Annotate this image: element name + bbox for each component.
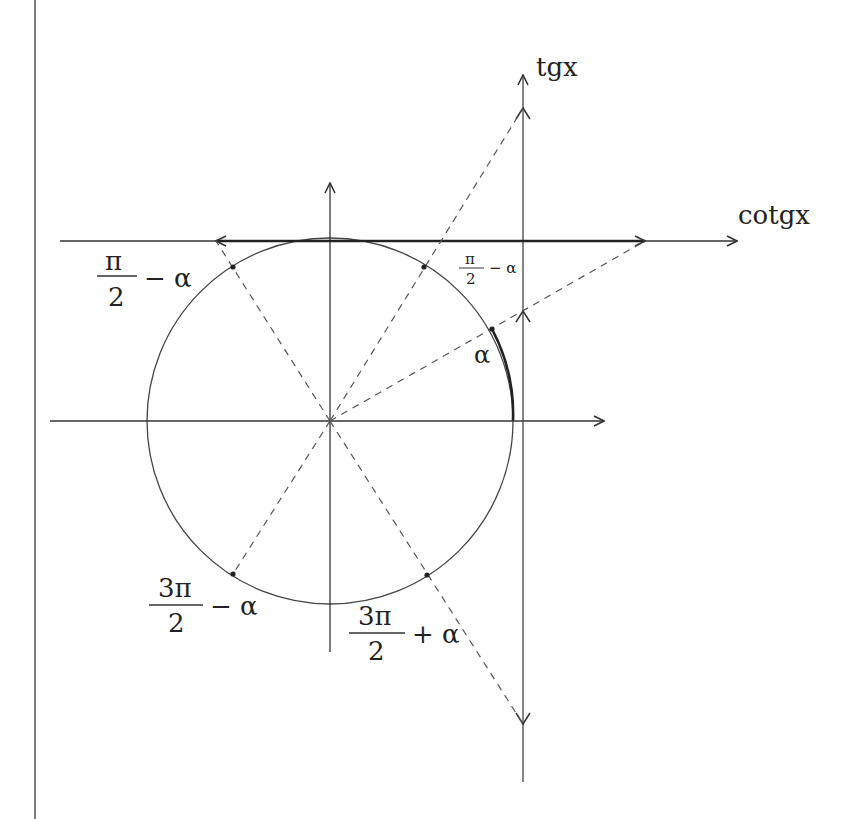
svg-text:2: 2 (368, 636, 385, 666)
point-pi-half-minus-alpha (421, 264, 426, 269)
svg-text:2: 2 (466, 270, 476, 288)
ray-three-pi-half-minus-alpha (233, 421, 330, 574)
svg-text:− α: − α (489, 259, 516, 277)
point-three-pi-half-plus-alpha (424, 572, 429, 577)
point-left-upper (230, 264, 235, 269)
tangent-axis-label: tgx (536, 52, 578, 82)
svg-text:3π: 3π (358, 601, 392, 631)
svg-text:π: π (465, 250, 475, 268)
svg-text:2: 2 (168, 608, 185, 638)
label-three-pi-half-minus-alpha: 3π 2 − α (149, 573, 258, 638)
label-three-pi-half-plus-alpha: 3π 2 + α (349, 601, 460, 666)
label-pi-half-minus-alpha-small: π 2 − α (459, 250, 516, 288)
svg-text:π: π (105, 246, 122, 276)
svg-text:+ α: + α (412, 619, 460, 649)
label-pi-half-minus-alpha-left: π 2 − α (97, 246, 192, 312)
svg-text:3π: 3π (158, 573, 192, 603)
cotangent-axis-label: cotgx (738, 200, 810, 230)
svg-text:2: 2 (108, 282, 125, 312)
trig-circle-diagram: tgx cotgx α π 2 − α π 2 − α 3π 2 − α 3π … (0, 0, 849, 819)
point-alpha (489, 326, 494, 331)
point-three-pi-half-minus-alpha (230, 571, 235, 576)
svg-text:− α: − α (210, 591, 258, 621)
alpha-label: α (474, 341, 490, 369)
svg-text:− α: − α (144, 263, 192, 293)
ray-alpha (330, 241, 645, 421)
